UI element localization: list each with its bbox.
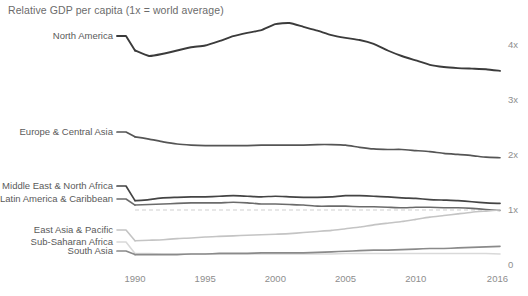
leader-line-latin-america-caribbean: [117, 199, 135, 205]
series-label-north-america: North America: [53, 30, 113, 41]
leader-line-north-america: [117, 36, 135, 51]
x-tick-2010: 2010: [396, 273, 436, 284]
y-tick-2x: 2x: [508, 149, 518, 160]
series-label-latin-america-caribbean: Latin America & Caribbean: [0, 193, 113, 204]
series-label-middle-east-north-africa: Middle East & North Africa: [2, 180, 113, 191]
leader-line-europe-central-asia: [117, 132, 135, 137]
y-tick-4x: 4x: [508, 39, 518, 50]
series-label-east-asia-pacific: East Asia & Pacific: [34, 224, 113, 235]
leader-line-east-asia-pacific: [117, 230, 135, 241]
series-label-europe-central-asia: Europe & Central Asia: [20, 126, 113, 137]
series-lines-group: [135, 23, 500, 255]
leader-lines-group: [117, 36, 135, 255]
series-line-north-america: [135, 23, 500, 71]
series-line-europe-central-asia: [135, 137, 500, 158]
x-tick-2016: 2016: [468, 273, 508, 284]
y-tick-1x: 1x: [508, 204, 518, 215]
series-line-latin-america-caribbean: [135, 202, 500, 210]
x-tick-1990: 1990: [115, 273, 155, 284]
x-tick-1995: 1995: [185, 273, 225, 284]
leader-line-south-asia: [117, 251, 135, 255]
x-tick-2000: 2000: [255, 273, 295, 284]
x-tick-2005: 2005: [326, 273, 366, 284]
y-tick-0: 0: [508, 259, 513, 270]
series-line-east-asia-pacific: [135, 210, 500, 241]
y-tick-3x: 3x: [508, 94, 518, 105]
relative-gdp-per-capita-chart: Relative GDP per capita (1x = world aver…: [0, 0, 528, 296]
series-label-south-asia: South Asia: [68, 245, 113, 256]
